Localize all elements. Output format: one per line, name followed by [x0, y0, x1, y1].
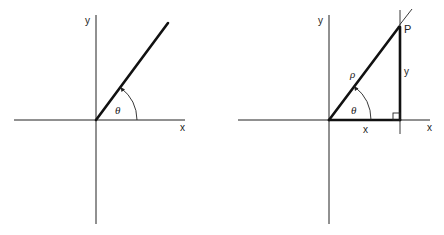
point-p-label: P	[404, 23, 411, 35]
polar-coordinates-diagram: y x θ y x θ ρ P y x	[0, 0, 444, 235]
y-leg-label: y	[404, 66, 409, 77]
rho-label: ρ	[349, 68, 355, 80]
left-theta-label: θ	[115, 104, 121, 116]
left-x-label: x	[180, 122, 185, 133]
right-panel: y x θ ρ P y x	[238, 9, 432, 224]
right-rho-segment	[329, 27, 399, 120]
right-y-label: y	[318, 15, 323, 26]
left-y-label: y	[85, 15, 90, 26]
x-leg-label: x	[363, 124, 368, 135]
right-theta-label: θ	[351, 104, 357, 116]
right-angle-arrow-icon	[354, 86, 359, 91]
right-x-label: x	[427, 122, 432, 133]
left-angle-arc	[121, 88, 137, 120]
left-panel: y x θ	[14, 15, 185, 224]
left-ray	[96, 23, 168, 120]
right-angle-arc	[355, 87, 371, 120]
